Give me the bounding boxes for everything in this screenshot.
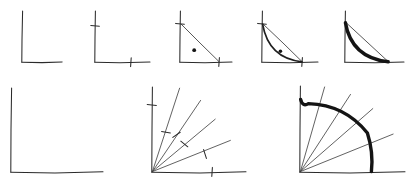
x-axis xyxy=(11,172,103,173)
ray-4 xyxy=(300,134,393,172)
panel-7-radial-rays xyxy=(147,87,246,176)
ray-1 xyxy=(300,87,324,172)
x-axis xyxy=(345,62,404,63)
y-axis-tick xyxy=(91,26,100,27)
interior-point-dot xyxy=(192,48,196,52)
chord-line xyxy=(181,24,219,62)
y-axis-tick xyxy=(147,105,156,106)
x-axis xyxy=(95,62,150,63)
x-axis xyxy=(22,62,62,63)
y-axis xyxy=(95,11,96,62)
ray-3-tick xyxy=(181,141,188,147)
y-axis xyxy=(22,11,23,62)
x-axis xyxy=(180,62,232,63)
y-axis xyxy=(262,11,263,62)
ray-4 xyxy=(152,140,230,171)
y-axis-tick xyxy=(176,23,185,24)
y-axis xyxy=(180,11,181,62)
x-axis xyxy=(262,62,318,63)
x-axis-ray-tick xyxy=(212,167,213,176)
y-axis xyxy=(152,87,153,172)
interior-point-dot xyxy=(279,49,283,53)
ray-3 xyxy=(300,109,372,172)
x-axis xyxy=(152,172,246,173)
panel-2-axes-with-ticks xyxy=(91,11,150,67)
panel-6-bare-axes-large xyxy=(11,88,103,173)
panel-8-quarter-circle xyxy=(300,86,405,173)
panel-3-chord-and-point xyxy=(176,11,232,66)
panel-1-bare-axes xyxy=(22,11,62,63)
y-axis xyxy=(11,88,12,172)
ray-1 xyxy=(152,88,179,171)
x-axis xyxy=(300,172,405,173)
quarter-circle-arc xyxy=(301,99,372,171)
panel-5-bold-curve xyxy=(345,11,404,63)
figure-root xyxy=(0,0,412,195)
construction-diagram-canvas xyxy=(0,0,412,195)
ray-3 xyxy=(152,119,215,171)
x-axis-tick xyxy=(131,58,132,67)
y-axis xyxy=(345,11,346,62)
ray-1-tick xyxy=(162,132,171,133)
ray-2 xyxy=(152,100,200,171)
panel-4-curve-through-point xyxy=(258,11,318,66)
